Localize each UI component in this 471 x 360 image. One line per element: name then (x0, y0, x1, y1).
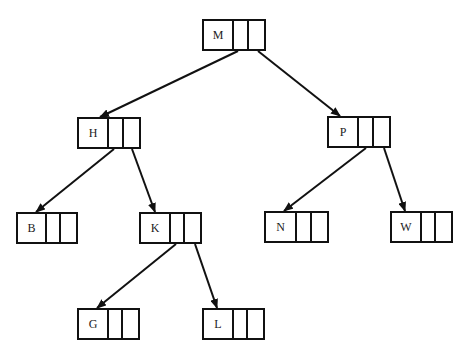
node-key: L (204, 310, 234, 338)
edge-h-k (132, 149, 155, 212)
right-pointer-cell (374, 118, 389, 146)
tree-node-p: P (327, 116, 391, 148)
left-pointer-cell (109, 310, 123, 338)
left-pointer-cell (234, 310, 248, 338)
node-key: N (266, 213, 297, 241)
tree-node-l: L (202, 308, 265, 340)
left-pointer-cell (109, 119, 124, 147)
tree-node-w: W (390, 211, 453, 243)
node-key: B (18, 214, 47, 242)
right-pointer-cell (123, 310, 137, 338)
edge-k-l (195, 244, 217, 308)
node-key: W (392, 213, 422, 241)
right-pointer-cell (248, 310, 262, 338)
node-key: G (79, 310, 109, 338)
node-key: K (141, 214, 171, 242)
tree-edges (0, 0, 471, 360)
edge-h-b (36, 149, 114, 212)
tree-node-b: B (16, 212, 78, 244)
right-pointer-cell (185, 214, 199, 242)
tree-node-k: K (139, 212, 202, 244)
right-pointer-cell (61, 214, 75, 242)
left-pointer-cell (234, 21, 249, 49)
left-pointer-cell (359, 118, 374, 146)
right-pointer-cell (436, 213, 450, 241)
left-pointer-cell (171, 214, 185, 242)
edge-p-n (284, 148, 366, 211)
right-pointer-cell (312, 213, 327, 241)
tree-node-m: M (202, 19, 266, 51)
node-key: M (204, 21, 234, 49)
node-key: P (329, 118, 359, 146)
left-pointer-cell (422, 213, 436, 241)
left-pointer-cell (47, 214, 61, 242)
right-pointer-cell (124, 119, 139, 147)
node-key: H (79, 119, 109, 147)
edge-m-h (100, 51, 238, 117)
edge-m-p (258, 51, 340, 116)
left-pointer-cell (297, 213, 312, 241)
tree-node-n: N (264, 211, 329, 243)
edge-p-w (384, 148, 405, 211)
edge-k-g (97, 244, 176, 308)
tree-node-h: H (77, 117, 141, 149)
tree-node-g: G (77, 308, 140, 340)
right-pointer-cell (249, 21, 264, 49)
